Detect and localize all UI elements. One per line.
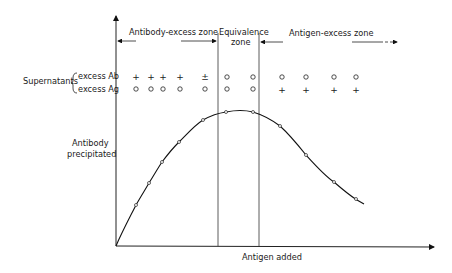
zone-equivalence-label-1: Equivalence xyxy=(219,27,269,37)
precipitin-curve xyxy=(116,111,364,247)
supernatants-label: Supernatants xyxy=(23,76,78,86)
x-axis xyxy=(116,246,434,247)
excess-ag-label: excess Ag xyxy=(78,84,119,94)
excess-ab-row: ++++± xyxy=(132,72,358,82)
svg-text:+: + xyxy=(159,72,167,82)
svg-text:+: + xyxy=(352,85,360,95)
svg-text:+: + xyxy=(278,85,286,95)
svg-text:+: + xyxy=(176,72,184,82)
zone-equivalence-label-2: zone xyxy=(231,37,251,47)
svg-text:+: + xyxy=(147,72,155,82)
svg-text:+: + xyxy=(302,85,310,95)
zone-antibody-excess-label: Antibody-excess zone xyxy=(129,27,218,37)
curve-data-points xyxy=(135,111,358,207)
y-axis-label-1: Antibody xyxy=(72,138,109,148)
y-axis-label-2: precipitated xyxy=(67,149,116,159)
x-axis-label: Antigen added xyxy=(242,252,302,262)
svg-text:+: + xyxy=(132,72,140,82)
excess-ab-label: excess Ab xyxy=(78,71,119,81)
precipitin-curve-diagram: Antibody-excess zone Equivalence zone An… xyxy=(0,0,452,273)
svg-text:+: + xyxy=(330,85,338,95)
svg-text:±: ± xyxy=(201,72,209,82)
excess-ag-row: ++++ xyxy=(134,85,360,95)
zone-antigen-excess-label: Antigen-excess zone xyxy=(289,28,373,38)
